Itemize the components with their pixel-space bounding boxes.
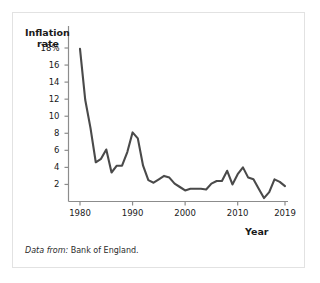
source-note-lead: Data from:	[25, 246, 68, 255]
y-axis-tick-label: 4	[30, 162, 60, 172]
source-note-text: Bank of England.	[71, 246, 139, 255]
y-axis-tick-label: 16	[30, 60, 60, 70]
source-note: Data from: Bank of England.	[25, 246, 139, 255]
x-axis-tick-label: 2000	[165, 208, 205, 218]
x-axis-tick-label: 1990	[113, 208, 153, 218]
y-axis-tick-label: 12	[30, 94, 60, 104]
x-axis-tick-label: 1980	[60, 208, 100, 218]
y-axis-tick-label: 2	[30, 179, 60, 189]
inflation-rate-series-line	[80, 49, 285, 198]
figure-panel: Inflation rate Year 24681012141618% 1980…	[12, 12, 305, 268]
y-axis-tick-label: 10	[30, 111, 60, 121]
y-axis-tick-label: 6	[30, 145, 60, 155]
x-axis-tick-label: 2010	[218, 208, 258, 218]
y-axis-tick-label: 14	[30, 77, 60, 87]
chart-plot-area: Inflation rate Year 24681012141618% 1980…	[13, 13, 306, 269]
y-axis-tick-label: 8	[30, 128, 60, 138]
x-axis-tick-label: 2019	[265, 208, 305, 218]
y-axis-tick-label: 18%	[30, 43, 60, 53]
chart-axes	[69, 26, 289, 202]
x-axis-tick-marks	[80, 202, 285, 206]
y-axis-title-line1: Inflation	[25, 27, 70, 38]
x-axis-title: Year	[245, 226, 269, 237]
